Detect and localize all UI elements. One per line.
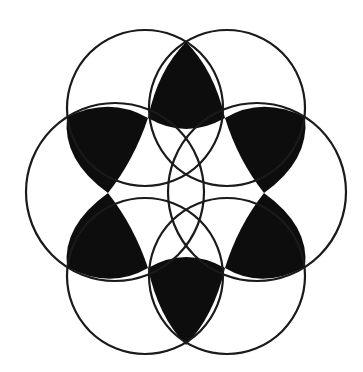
six-circle-lens-diagram [0,0,363,372]
black-lens-regions [67,42,306,345]
